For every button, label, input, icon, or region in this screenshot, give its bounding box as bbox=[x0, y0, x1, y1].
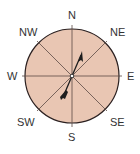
label-southeast: SE bbox=[110, 117, 125, 128]
compass-diagram: N NE E SE S SW W NW bbox=[0, 0, 140, 154]
label-east: E bbox=[127, 71, 134, 82]
label-west: W bbox=[7, 71, 17, 82]
label-north: N bbox=[68, 10, 76, 21]
label-northeast: NE bbox=[110, 27, 125, 38]
label-northwest: NW bbox=[19, 27, 37, 38]
needle-pivot bbox=[70, 74, 74, 78]
label-southwest: SW bbox=[17, 117, 35, 128]
label-south: S bbox=[68, 132, 75, 143]
